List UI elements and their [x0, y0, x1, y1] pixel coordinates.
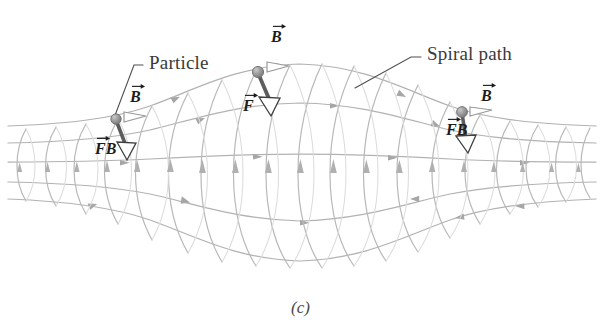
vector-label-f-top: F: [243, 97, 254, 115]
vector-overbar-arrow-icon: [131, 82, 146, 89]
vector-symbol-b-right: B: [481, 87, 492, 104]
vector-symbol-fb-right: F: [446, 121, 457, 138]
force-vector-head-top: [259, 97, 280, 116]
vector-symbol-f-top: F: [243, 97, 254, 114]
vector-label-b-right: B: [481, 87, 492, 105]
callout-label-particle: Particle: [149, 52, 209, 74]
figure-magnetic-bottle: Particle Spiral path B FB B F: [0, 0, 603, 333]
vector-label-b-top: B: [271, 28, 282, 46]
vector-overbar-arrow-icon: [482, 81, 497, 88]
magnetic-bottle-illustration: [0, 0, 603, 333]
vector-overbar-arrow-icon: [272, 22, 287, 29]
figure-caption: (c): [291, 298, 310, 318]
vector-overbar-arrow-icon: [447, 115, 462, 122]
vector-overbar-arrow-icon: [244, 91, 259, 98]
b-vector-head-top: [267, 62, 289, 72]
vector-symbol-fb-left: F: [95, 140, 106, 157]
force-vector-head-left: [117, 142, 136, 160]
b-vector-head-left: [124, 112, 146, 122]
leader-spiral-path: [355, 57, 421, 88]
vector-label-fb-right: FB: [446, 121, 467, 139]
vector-overbar-arrow-icon: [96, 134, 111, 141]
vector-label-b-left: B: [130, 88, 141, 106]
vector-label-fb-left: FB: [95, 140, 116, 158]
vector-symbol-b-top: B: [271, 28, 282, 45]
vector-subscript-fb-left: B: [106, 140, 117, 157]
vector-subscript-fb-right: B: [457, 121, 468, 138]
particle-ball-top: [252, 66, 263, 77]
field-line-5: [8, 199, 596, 261]
vector-symbol-b-left: B: [130, 88, 141, 105]
particle-ball-left: [111, 114, 121, 124]
callout-label-spiral-path: Spiral path: [427, 43, 512, 65]
spiral-path-front: [17, 64, 590, 268]
